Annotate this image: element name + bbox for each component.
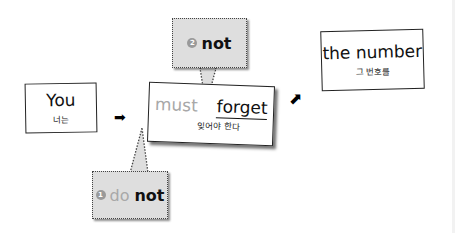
object-english: the number: [322, 41, 422, 62]
verb-box: must forget 잊어야 한다: [147, 82, 275, 146]
callout-2: 2 not: [172, 18, 247, 68]
verb-english: must forget: [155, 95, 268, 118]
number-badge-2: 2: [187, 38, 197, 48]
subject-korean: 너는: [53, 113, 69, 125]
verb-forget: forget: [216, 96, 268, 120]
object-korean: 그 번호를: [355, 65, 390, 78]
verb-korean: 잊어야 한다: [197, 119, 240, 132]
callout-1-do: do: [110, 186, 130, 205]
arrow-right-icon: ➡: [114, 110, 126, 124]
callout-2-not: not: [201, 34, 231, 53]
object-box: the number 그 번호를: [320, 29, 425, 92]
arrow-up-right-icon: ⬈: [289, 91, 302, 107]
verb-must: must: [155, 94, 199, 115]
number-badge-1: 1: [96, 190, 106, 200]
subject-box: You 너는: [25, 82, 98, 133]
callout-1-not: not: [134, 186, 164, 205]
callout-1: 1 do not: [92, 171, 168, 219]
subject-english: You: [46, 90, 76, 109]
